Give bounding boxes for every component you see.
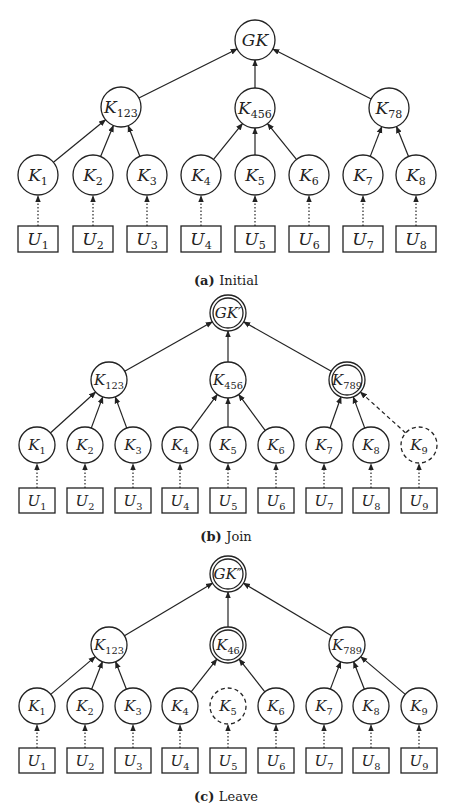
key-tree-diagrams: U1K1U2K2U3K3U4K4U5K5U6K6U7K7U8K8K123K456…: [0, 0, 452, 805]
leaf-key-node-c-7: K7: [306, 688, 342, 724]
user-node-a-5: U5: [235, 226, 275, 252]
subgroup-key-node-a-456: K456: [235, 88, 275, 128]
node-label: GK″: [214, 565, 243, 583]
group-key-node-a: GK: [235, 20, 275, 60]
caption-b: (b) Join: [200, 529, 252, 544]
edge-middle-to-root: [243, 583, 331, 636]
leaf-key-node-b-9: K9: [401, 427, 437, 463]
user-node-b-4: U4: [162, 488, 198, 513]
leaf-key-node-a-1: K1: [18, 155, 58, 195]
caption-a: (a) Initial: [194, 273, 258, 288]
leaf-key-node-c-4: K4: [162, 688, 198, 724]
user-node-c-1: U1: [19, 748, 55, 773]
leaf-key-node-a-3: K3: [127, 155, 167, 195]
user-node-a-4: U4: [181, 226, 221, 252]
user-node-c-4: U4: [162, 748, 198, 773]
edge-middle-to-root: [273, 49, 371, 99]
edge-leaf-to-middle: [239, 394, 266, 430]
user-node-b-1: U1: [19, 488, 55, 513]
edge-middle-to-root: [139, 49, 237, 98]
leaf-key-node-b-8: K8: [353, 427, 389, 463]
edge-leaf-to-middle: [91, 397, 103, 428]
edge-leaf-to-middle: [330, 662, 340, 689]
user-node-b-8: U8: [353, 488, 389, 513]
leaf-key-node-c-2: K2: [67, 688, 103, 724]
edge-leaf-to-middle: [354, 662, 365, 689]
edge-leaf-to-middle: [128, 126, 140, 157]
nodes-layer: U1K1U2K2U3K3U4K4U5K5U6K6U7K7U8K8K123K456…: [18, 20, 437, 773]
user-node-c-6: U6: [258, 748, 294, 773]
user-node-b-7: U7: [306, 488, 342, 513]
subgroup-key-node-c-789: K789: [329, 627, 365, 663]
edge-leaf-to-middle: [370, 127, 382, 157]
leaf-key-node-b-6: K6: [258, 427, 294, 463]
subgroup-key-node-a-123: K123: [101, 87, 141, 127]
user-node-a-3: U3: [127, 226, 167, 252]
leaf-key-node-a-7: K7: [343, 155, 383, 195]
edge-leaf-to-middle: [214, 124, 243, 160]
edge-leaf-to-middle: [396, 127, 408, 157]
edge-leaf-to-middle: [330, 397, 341, 428]
edge-leaf-to-middle: [116, 662, 127, 689]
edge-middle-to-root: [125, 322, 213, 371]
caption-c: (c) Leave: [194, 789, 258, 804]
subgroup-key-node-b-123: K123: [91, 362, 127, 398]
edge-leaf-to-middle: [101, 125, 114, 156]
group-key-node-c: GK″: [210, 556, 246, 592]
user-node-c-8: U8: [353, 748, 389, 773]
leaf-key-node-c-1: K1: [19, 688, 55, 724]
user-node-c-9: U9: [401, 748, 437, 773]
edge-leaf-to-middle: [115, 397, 127, 428]
node-label: GK′: [215, 304, 242, 322]
node-label: GK: [242, 30, 270, 50]
leaf-key-node-a-5: K5: [235, 155, 275, 195]
subgroup-key-node-c-46: K46: [210, 627, 246, 663]
subgroup-key-node-a-78: K78: [369, 88, 409, 128]
leaf-key-node-a-4: K4: [181, 155, 221, 195]
user-node-b-5: U5: [210, 488, 246, 513]
user-node-b-3: U3: [115, 488, 151, 513]
user-node-c-2: U2: [67, 748, 103, 773]
user-node-a-7: U7: [343, 226, 383, 252]
user-node-c-3: U3: [115, 748, 151, 773]
leaf-key-node-a-6: K6: [289, 155, 329, 195]
user-node-a-1: U1: [18, 226, 58, 252]
group-key-node-b: GK′: [210, 295, 246, 331]
leaf-key-node-c-8: K8: [353, 688, 389, 724]
leaf-key-node-c-6: K6: [258, 688, 294, 724]
leaf-key-node-b-7: K7: [306, 427, 342, 463]
leaf-key-node-c-5: K5: [210, 688, 246, 724]
user-node-b-6: U6: [258, 488, 294, 513]
edge-leaf-to-middle: [353, 397, 365, 428]
leaf-key-node-a-2: K2: [73, 155, 113, 195]
user-node-a-8: U8: [396, 226, 436, 252]
leaf-key-node-b-5: K5: [210, 427, 246, 463]
leaf-key-node-c-3: K3: [115, 688, 151, 724]
edge-leaf-to-middle: [239, 659, 265, 692]
leaf-key-node-b-4: K4: [162, 427, 198, 463]
edge-leaf-to-middle: [191, 659, 217, 692]
user-node-b-9: U9: [401, 488, 437, 513]
user-node-c-7: U7: [306, 748, 342, 773]
subgroup-key-node-b-789: K789: [329, 362, 365, 398]
leaf-key-node-b-3: K3: [115, 427, 151, 463]
user-node-a-2: U2: [73, 226, 113, 252]
leaf-key-node-a-8: K8: [396, 155, 436, 195]
edge-middle-to-root: [124, 583, 212, 636]
edge-leaf-to-middle: [268, 124, 297, 160]
leaf-key-node-b-2: K2: [67, 427, 103, 463]
subgroup-key-node-c-123: K123: [91, 627, 127, 663]
user-node-c-5: U5: [210, 748, 246, 773]
edge-leaf-to-middle: [191, 394, 218, 430]
edge-middle-to-root: [244, 322, 332, 371]
leaf-key-node-b-1: K1: [19, 427, 55, 463]
leaf-key-node-c-9: K9: [401, 688, 437, 724]
subgroup-key-node-b-456: K456: [210, 362, 246, 398]
edge-leaf-to-middle: [92, 662, 103, 689]
user-node-b-2: U2: [67, 488, 103, 513]
user-node-a-6: U6: [289, 226, 329, 252]
